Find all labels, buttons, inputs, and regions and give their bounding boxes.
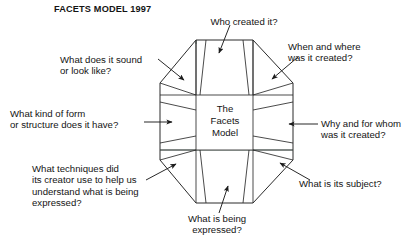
- label-when-and-where-was-it-created: When and where was it created?: [288, 41, 406, 64]
- center-facets-model-label: The Facets Model: [197, 103, 253, 140]
- label-what-is-being-expressed: What is being expressed?: [172, 213, 262, 236]
- label-who-created-it: Who created it?: [192, 16, 296, 27]
- label-what-is-its-subject: What is its subject?: [299, 178, 409, 189]
- label-what-techniques-did-its-creator-use: What techniques did its creator use to h…: [32, 163, 174, 209]
- center-line-3: Model: [197, 127, 253, 139]
- center-line-1: The: [197, 103, 253, 115]
- center-line-2: Facets: [197, 115, 253, 127]
- label-why-and-for-whom-was-it-created: Why and for whom was it created?: [321, 118, 413, 141]
- label-what-kind-of-form-or-structure: What kind of form or structure does it h…: [10, 108, 154, 131]
- label-what-does-it-sound-or-look-like: What does it sound or look like?: [60, 54, 172, 77]
- diagram-canvas: FACETS MODEL 1997: [0, 0, 415, 248]
